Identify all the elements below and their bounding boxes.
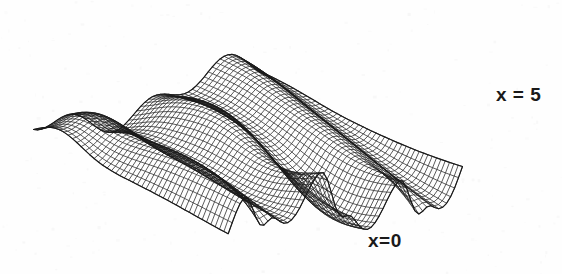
mesh-lines — [34, 54, 463, 233]
axis-label-x5: x = 5 — [496, 84, 541, 106]
axis-label-x0: x=0 — [368, 230, 402, 252]
wireframe-mesh — [0, 0, 562, 274]
surface-plot-figure: x = 5 x=0 — [0, 0, 562, 274]
